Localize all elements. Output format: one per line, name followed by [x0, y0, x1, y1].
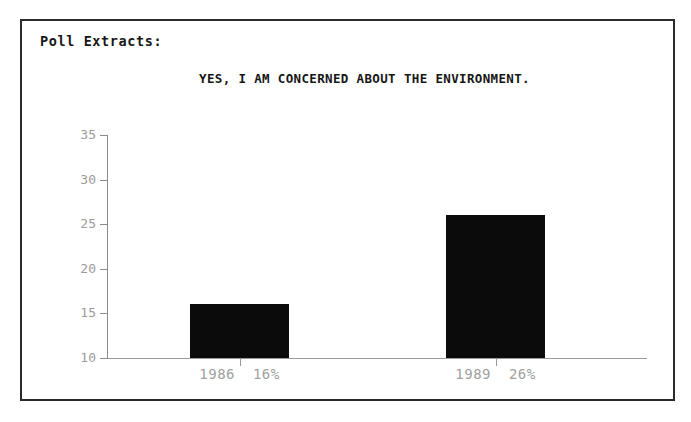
y-tick-label-row: 15 — [22, 306, 96, 320]
bar-chart: 353025201510 1986 16%1989 26% — [22, 21, 677, 403]
y-tick-mark — [100, 135, 108, 136]
x-tick-label: 1986 16% — [160, 367, 320, 382]
y-tick-mark — [100, 269, 108, 270]
y-tick-label: 15 — [52, 306, 96, 319]
y-tick-mark — [100, 313, 108, 314]
y-tick-label-row: 30 — [22, 173, 96, 187]
y-tick-label: 10 — [52, 351, 96, 364]
y-tick-label-row: 20 — [22, 262, 96, 276]
x-tick-mark — [496, 359, 497, 366]
x-tick-mark — [240, 359, 241, 366]
y-tick-mark — [100, 180, 108, 181]
poll-extract-card: Poll Extracts: YES, I AM CONCERNED ABOUT… — [20, 19, 675, 401]
bar — [190, 304, 289, 358]
bar — [446, 215, 545, 358]
y-tick-label: 30 — [52, 173, 96, 186]
y-tick-label: 20 — [52, 262, 96, 275]
y-tick-label: 25 — [52, 217, 96, 230]
x-tick-label: 1989 26% — [416, 367, 576, 382]
y-tick-label-row: 35 — [22, 128, 96, 142]
y-tick-mark — [100, 358, 108, 359]
y-tick-mark — [100, 224, 108, 225]
x-axis-line — [107, 358, 647, 359]
y-tick-label-row: 25 — [22, 217, 96, 231]
y-tick-label: 35 — [52, 128, 96, 141]
y-axis-line — [107, 135, 108, 359]
y-tick-label-row: 10 — [22, 351, 96, 365]
